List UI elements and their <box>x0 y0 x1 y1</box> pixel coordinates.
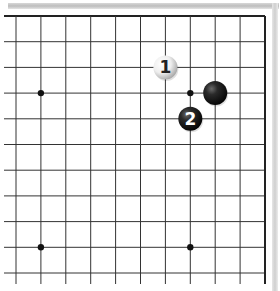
board-grid[interactable]: 12 <box>0 0 280 291</box>
star-point <box>187 90 193 96</box>
star-point <box>38 90 44 96</box>
move-number: 2 <box>184 109 196 129</box>
black-stone[interactable]: 2 <box>178 107 203 133</box>
move-number: 1 <box>159 57 171 77</box>
black-stone[interactable] <box>203 81 228 107</box>
grid-lines <box>4 16 265 284</box>
star-point <box>187 244 193 250</box>
white-stone[interactable]: 1 <box>153 55 178 81</box>
go-board[interactable]: 12 <box>0 0 280 291</box>
star-point <box>38 244 44 250</box>
